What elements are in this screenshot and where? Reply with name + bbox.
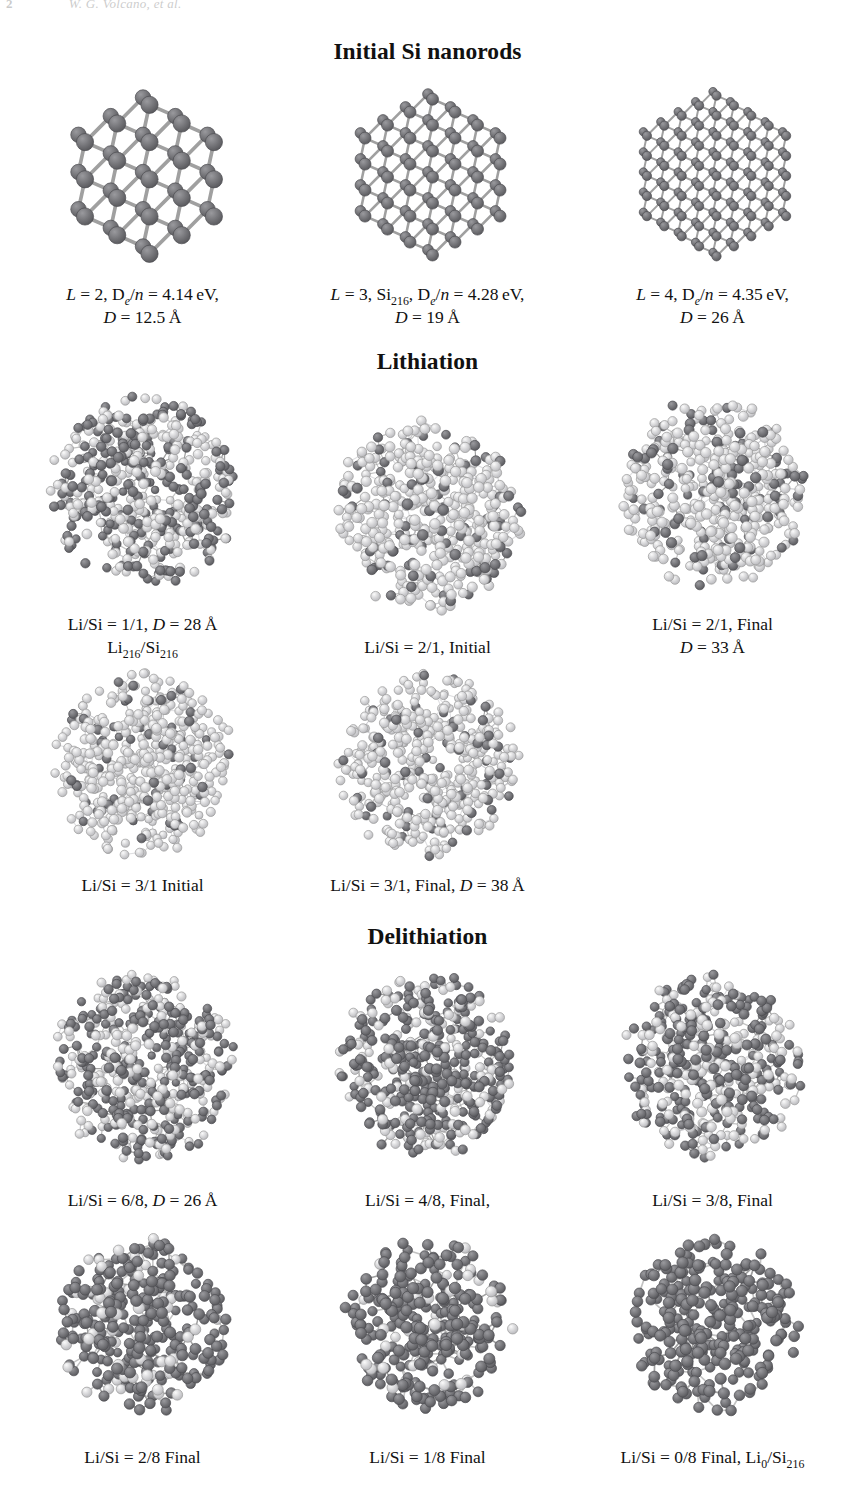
running-head: 2 W. G. Volcano, et al. [0, 0, 855, 12]
lithiation-1-1-render [23, 382, 263, 607]
cell-delithiation-2-8-final: Li/Si = 2/8 Final [0, 1225, 285, 1469]
caption-si-nanorod-L3: L = 3, Si216, De/n = 4.28 eV, D = 19 Å [331, 283, 525, 329]
delithiation-2-8-final-figure [28, 1225, 258, 1440]
cell-delithiation-1-8-final: Li/Si = 1/8 Final [285, 1225, 570, 1469]
lithiation-3-1-initial-render [23, 668, 263, 868]
cell-si-nanorod-L4: L = 4, De/n = 4.35 eV, D = 26 Å [570, 72, 855, 329]
cell-si-nanorod-L2: L = 2, De/n = 4.14 eV, D = 12.5 Å [0, 72, 285, 329]
lithiation-1-1-figure [23, 382, 263, 607]
delithiation-4-8-final-figure [308, 958, 548, 1183]
delithiation-0-8-final-render [598, 1225, 828, 1440]
si-nanorod-L3-render [313, 72, 543, 277]
cell-lithiation-3-1-initial: Li/Si = 3/1 Initial [0, 668, 285, 897]
caption-lithiation-2-1-final: Li/Si = 2/1, Final D = 33 Å [652, 613, 773, 659]
si-nanorod-L2-render [28, 72, 258, 277]
cell-lithiation-3-1-final: Li/Si = 3/1, Final, D = 38 Å [285, 668, 570, 897]
si-nanorod-L4-figure [598, 72, 828, 277]
si-nanorod-L3-figure [313, 72, 543, 277]
caption-lithiation-2-1-initial: Li/Si = 2/1, Initial [364, 636, 491, 659]
delithiation-3-8-final-figure [593, 958, 833, 1183]
caption-si-nanorod-L2: L = 2, De/n = 4.14 eV, D = 12.5 Å [66, 283, 219, 329]
cell-delithiation-3-8-final: Li/Si = 3/8, Final [570, 958, 855, 1212]
delithiation-0-8-final-figure [598, 1225, 828, 1440]
caption-lithiation-3-1-initial: Li/Si = 3/1 Initial [81, 874, 203, 897]
section-title-delithiation: Delithiation [0, 925, 855, 949]
caption-delithiation-1-8-final: Li/Si = 1/8 Final [369, 1446, 485, 1469]
delithiation-1-8-final-figure [313, 1225, 543, 1440]
delithiation-4-8-final-render [308, 958, 548, 1183]
page-folio: 2 [6, 0, 13, 12]
cell-lithiation-1-1: Li/Si = 1/1, D = 28 Å Li216/Si216 [0, 382, 285, 659]
lithiation-2-1-final-render [593, 382, 833, 607]
caption-lithiation-3-1-final: Li/Si = 3/1, Final, D = 38 Å [330, 874, 524, 897]
caption-si-nanorod-L4: L = 4, De/n = 4.35 eV, D = 26 Å [636, 283, 789, 329]
structure-row-2: Li/Si = 1/1, D = 28 Å Li216/Si216 Li/Si … [0, 382, 855, 659]
cell-si-nanorod-L3: L = 3, Si216, De/n = 4.28 eV, D = 19 Å [285, 72, 570, 329]
cell-delithiation-0-8-final: Li/Si = 0/8 Final, Li0/Si216 [570, 1225, 855, 1469]
cell-delithiation-6-8: Li/Si = 6/8, D = 26 Å [0, 958, 285, 1212]
caption-delithiation-2-8-final: Li/Si = 2/8 Final [84, 1446, 200, 1469]
delithiation-3-8-final-render [593, 958, 833, 1183]
running-head-authors: W. G. Volcano, et al. [69, 0, 182, 12]
delithiation-6-8-figure [23, 958, 263, 1183]
lithiation-2-1-initial-render [308, 405, 548, 630]
structure-row-5: Li/Si = 2/8 Final Li/Si = 1/8 Final Li/S… [0, 1225, 855, 1469]
caption-delithiation-4-8-final: Li/Si = 4/8, Final, [365, 1189, 490, 1212]
lithiation-3-1-initial-figure [23, 668, 263, 868]
caption-delithiation-0-8-final: Li/Si = 0/8 Final, Li0/Si216 [621, 1446, 805, 1469]
caption-lithiation-1-1: Li/Si = 1/1, D = 28 Å Li216/Si216 [68, 613, 218, 659]
lithiation-3-1-final-figure [308, 668, 548, 868]
caption-delithiation-3-8-final: Li/Si = 3/8, Final [652, 1189, 773, 1212]
si-nanorod-L4-render [598, 72, 828, 277]
si-nanorod-L2-figure [28, 72, 258, 277]
caption-delithiation-6-8: Li/Si = 6/8, D = 26 Å [68, 1189, 218, 1212]
delithiation-6-8-render [23, 958, 263, 1183]
lithiation-2-1-final-figure [593, 382, 833, 607]
lithiation-2-1-initial-figure [308, 405, 548, 630]
delithiation-2-8-final-render [28, 1225, 258, 1440]
cell-lithiation-2-1-final: Li/Si = 2/1, Final D = 33 Å [570, 382, 855, 659]
section-title-lithiation: Lithiation [0, 350, 855, 374]
structure-row-3: Li/Si = 3/1 Initial Li/Si = 3/1, Final, … [0, 668, 855, 897]
cell-lithiation-2-1-initial: Li/Si = 2/1, Initial [285, 405, 570, 659]
lithiation-3-1-final-render [308, 668, 548, 868]
structure-row-1: L = 2, De/n = 4.14 eV, D = 12.5 Å L = 3,… [0, 72, 855, 329]
section-title-initial: Initial Si nanorods [0, 40, 855, 64]
cell-delithiation-4-8-final: Li/Si = 4/8, Final, [285, 958, 570, 1212]
structure-row-4: Li/Si = 6/8, D = 26 Å Li/Si = 4/8, Final… [0, 958, 855, 1212]
delithiation-1-8-final-render [313, 1225, 543, 1440]
